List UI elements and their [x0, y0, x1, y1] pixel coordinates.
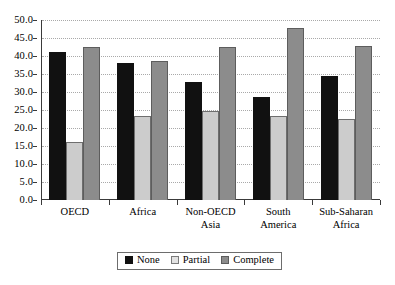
- bar-partial-africa: [134, 116, 151, 200]
- bar-complete-sub-saharan-africa: [355, 46, 372, 200]
- bar-none-south-america: [253, 97, 270, 200]
- bar-complete-south-america: [287, 28, 304, 200]
- legend-item-complete[interactable]: Complete: [221, 255, 274, 266]
- bar-group: [312, 20, 380, 200]
- y-axis-tick-mark: [33, 200, 37, 201]
- chart-legend: NonePartialComplete: [117, 252, 282, 270]
- bar-group: [41, 20, 109, 200]
- x-axis-category-line1: Africa: [110, 205, 176, 218]
- x-axis-labels: OECDAfricaNon-OECDAsiaSouthAmericaSub-Sa…: [41, 205, 380, 247]
- bar-complete-africa: [151, 61, 168, 200]
- bars-layer: [41, 20, 380, 200]
- x-axis-category-line2: Asia: [178, 218, 244, 231]
- y-axis-tick-mark: [33, 164, 37, 165]
- legend-item-label: Complete: [233, 255, 274, 266]
- bar-group: [177, 20, 245, 200]
- bar-chart: 50.045.040.035.030.025.020.015.010.05.00…: [0, 0, 395, 285]
- y-axis-tick-label: 0.0: [20, 195, 33, 206]
- x-axis-category-line1: South: [245, 205, 311, 218]
- x-axis-category-label: SouthAmerica: [244, 205, 312, 247]
- legend-item-none[interactable]: None: [125, 255, 160, 266]
- legend-swatch-partial-icon: [171, 256, 179, 264]
- legend-item-label: Partial: [183, 255, 210, 266]
- y-axis-tick-label: 25.0: [14, 105, 33, 116]
- y-axis-tick-label: 40.0: [14, 51, 33, 62]
- x-axis-category-line2: America: [245, 218, 311, 231]
- y-axis-tick-label: 30.0: [14, 87, 33, 98]
- y-axis-tick-mark: [33, 56, 37, 57]
- x-axis-category-label: Sub-SaharanAfrica: [312, 205, 380, 247]
- bar-none-non-oecd-asia: [185, 82, 202, 200]
- x-axis-category-line1: Non-OECD: [178, 205, 244, 218]
- legend-swatch-none-icon: [125, 256, 133, 264]
- x-axis-category-line1: OECD: [42, 205, 108, 218]
- x-axis-category-label: Non-OECDAsia: [177, 205, 245, 247]
- y-axis-tick-label: 10.0: [14, 159, 33, 170]
- y-axis-tick-mark: [33, 38, 37, 39]
- bar-none-oecd: [49, 52, 66, 200]
- bar-complete-non-oecd-asia: [219, 47, 236, 200]
- y-axis-tick-mark: [33, 92, 37, 93]
- y-axis-tick-label: 45.0: [14, 33, 33, 44]
- y-axis-tick-mark: [33, 128, 37, 129]
- x-axis-category-label: Africa: [109, 205, 177, 247]
- bar-partial-sub-saharan-africa: [338, 119, 355, 200]
- x-axis-category-label: OECD: [41, 205, 109, 247]
- legend-item-partial[interactable]: Partial: [171, 255, 210, 266]
- y-axis: 50.045.040.035.030.025.020.015.010.05.00…: [0, 20, 37, 200]
- x-axis-category-line1: Sub-Saharan: [313, 205, 379, 218]
- bar-group: [109, 20, 177, 200]
- bar-none-sub-saharan-africa: [321, 76, 338, 200]
- y-axis-tick-mark: [33, 146, 37, 147]
- y-axis-tick-mark: [33, 182, 37, 183]
- legend-swatch-complete-icon: [221, 256, 229, 264]
- legend-item-label: None: [137, 255, 160, 266]
- y-axis-tick-mark: [33, 74, 37, 75]
- x-axis-category-line2: Africa: [313, 218, 379, 231]
- x-axis-tick-mark: [380, 200, 381, 205]
- bar-partial-non-oecd-asia: [202, 111, 219, 200]
- y-axis-tick-mark: [33, 110, 37, 111]
- bar-group: [244, 20, 312, 200]
- y-axis-tick-label: 50.0: [14, 15, 33, 26]
- bar-partial-oecd: [66, 142, 83, 200]
- y-axis-tick-mark: [33, 20, 37, 21]
- bar-complete-oecd: [83, 47, 100, 200]
- y-axis-tick-label: 35.0: [14, 69, 33, 80]
- bar-partial-south-america: [270, 116, 287, 200]
- y-axis-tick-label: 5.0: [20, 177, 33, 188]
- y-axis-tick-label: 15.0: [14, 141, 33, 152]
- y-axis-tick-label: 20.0: [14, 123, 33, 134]
- bar-none-africa: [117, 63, 134, 200]
